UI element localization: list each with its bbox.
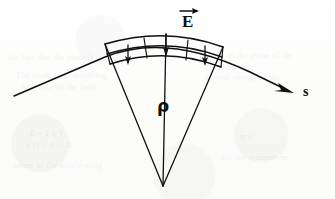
electric-field-letter: E [182,12,193,31]
radius-of-curvature-label: ρ [157,96,169,116]
left-wedge-edge [105,44,163,186]
figure-canvas: the fact that the particlemotion in the … [0,0,335,199]
beam-trajectory-curve [14,47,289,96]
right-wedge-edge [163,47,223,186]
electric-field-vector-label: E [182,12,193,32]
path-coordinate-label: s [303,84,308,100]
